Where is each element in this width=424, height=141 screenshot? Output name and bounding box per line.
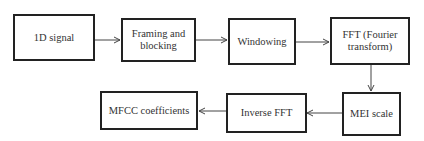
node-1d-signal: 1D signal [13, 14, 95, 61]
node-label: FFT (Fourier transform) [335, 29, 405, 53]
node-label: MFCC coefficients [109, 105, 190, 117]
node-label: Windowing [237, 36, 286, 48]
node-framing-and-blocking: Framing and blocking [121, 18, 196, 62]
node-inverse-fft: Inverse FFT [226, 93, 307, 133]
node-label: Inverse FFT [241, 107, 293, 119]
flowchart-canvas: 1D signal Framing and blocking Windowing… [0, 0, 424, 141]
node-fft: FFT (Fourier transform) [330, 17, 410, 65]
node-label: 1D signal [34, 32, 75, 44]
node-mfcc-coefficients: MFCC coefficients [100, 91, 198, 130]
node-label: MEI scale [350, 108, 393, 120]
node-mel-scale: MEI scale [342, 92, 401, 136]
node-label: Framing and blocking [126, 28, 191, 52]
node-windowing: Windowing [228, 18, 296, 65]
